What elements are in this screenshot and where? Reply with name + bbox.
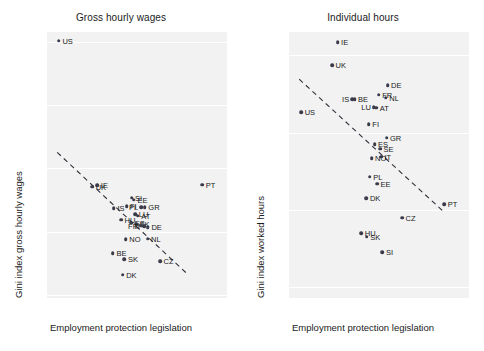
- data-point-label: UK: [336, 61, 346, 70]
- data-point: [96, 184, 100, 188]
- data-point: [330, 63, 334, 67]
- data-point: [375, 106, 379, 110]
- data-point: [111, 251, 115, 255]
- data-point: [143, 206, 147, 210]
- data-point-label: PL: [129, 203, 138, 212]
- data-point: [353, 98, 357, 102]
- data-point-label: IS: [117, 204, 124, 213]
- gridline: [47, 232, 227, 233]
- data-point: [378, 147, 382, 151]
- data-point-label: US: [305, 108, 315, 117]
- data-point-label: SK: [128, 255, 138, 264]
- gridline: [289, 55, 469, 56]
- data-point-label: EE: [137, 195, 147, 204]
- data-point: [57, 39, 61, 43]
- data-point: [365, 197, 369, 201]
- data-point: [125, 204, 129, 208]
- data-point-label: NL: [389, 93, 399, 102]
- data-point-label: FI: [372, 120, 379, 129]
- data-point-label: IE: [101, 181, 108, 190]
- data-point-label: NL: [151, 234, 161, 243]
- data-point: [360, 231, 364, 235]
- data-point-label: CZ: [164, 257, 174, 266]
- data-point-label: DE: [151, 223, 161, 232]
- data-point: [377, 93, 381, 97]
- x-axis-title: Employment protection legislation: [0, 322, 242, 333]
- data-point-label: CZ: [406, 213, 416, 222]
- gridline: [289, 133, 469, 134]
- gridline: [47, 168, 227, 169]
- data-point: [336, 40, 340, 44]
- regression-line: [289, 32, 469, 298]
- gridline: [47, 295, 227, 296]
- data-point-label: BE: [116, 249, 126, 258]
- data-point-label: SK: [370, 232, 380, 241]
- data-point: [370, 156, 374, 160]
- data-point: [384, 96, 388, 100]
- data-point-label: EE: [381, 179, 391, 188]
- data-point: [368, 175, 372, 179]
- data-point: [146, 237, 150, 241]
- data-point: [136, 214, 140, 218]
- y-axis-title: Gini index gross hourly wages: [13, 171, 24, 298]
- plot-area: USUKIESIEEISFIPLGRLUATHUESSKFRITDENONLBE…: [47, 32, 227, 298]
- data-point-label: IS: [342, 95, 349, 104]
- data-point: [379, 155, 383, 159]
- panel-gross-hourly-wages: Gross hourly wages USUKIESIEEISFIPLGRLUA…: [0, 0, 242, 351]
- data-point-label: NO: [129, 235, 140, 244]
- data-point-label: DE: [391, 81, 401, 90]
- data-point: [299, 111, 303, 115]
- data-point: [381, 251, 385, 255]
- panel-title: Individual hours: [242, 12, 484, 23]
- data-point: [124, 237, 128, 241]
- gridline: [47, 42, 227, 43]
- data-point: [373, 142, 377, 146]
- data-point: [123, 258, 127, 262]
- data-point: [112, 206, 116, 210]
- panel-individual-hours: Individual hours IEUKDEFRNLISBELUATUSFIG…: [242, 0, 484, 351]
- data-point-label: IE: [341, 38, 348, 47]
- gridline: [289, 287, 469, 288]
- data-point-label: DK: [370, 194, 380, 203]
- data-point-label: PT: [206, 180, 216, 189]
- data-point: [146, 225, 150, 229]
- data-point: [158, 260, 162, 264]
- gridline: [47, 105, 227, 106]
- data-point: [400, 216, 404, 220]
- data-point: [119, 218, 123, 222]
- data-point: [90, 185, 94, 189]
- y-axis-title: Gini index worked hours: [255, 196, 266, 298]
- data-point: [386, 84, 390, 88]
- data-point: [442, 203, 446, 207]
- data-point-label: PT: [448, 200, 458, 209]
- chart-page: Gross hourly wages USUKIESIEEISFIPLGRLUA…: [0, 0, 484, 351]
- data-point: [121, 273, 125, 277]
- data-point-label: US: [62, 36, 72, 45]
- plot-area: IEUKDEFRNLISBELUATUSFIGRESSENOITPLEEDKPT…: [289, 32, 469, 298]
- panel-title: Gross hourly wages: [0, 12, 242, 23]
- data-point-label: LU: [361, 103, 371, 112]
- data-point-label: IT: [385, 152, 392, 161]
- data-point: [365, 235, 369, 239]
- gridline: [289, 210, 469, 211]
- data-point-label: DK: [126, 270, 136, 279]
- data-point: [200, 183, 204, 187]
- data-point-label: SI: [386, 248, 393, 257]
- data-point-label: IT: [134, 222, 141, 231]
- data-point-label: GR: [390, 133, 401, 142]
- data-point-label: AT: [380, 103, 389, 112]
- data-point: [375, 182, 379, 186]
- data-point: [367, 122, 371, 126]
- x-axis-title: Employment protection legislation: [242, 322, 484, 333]
